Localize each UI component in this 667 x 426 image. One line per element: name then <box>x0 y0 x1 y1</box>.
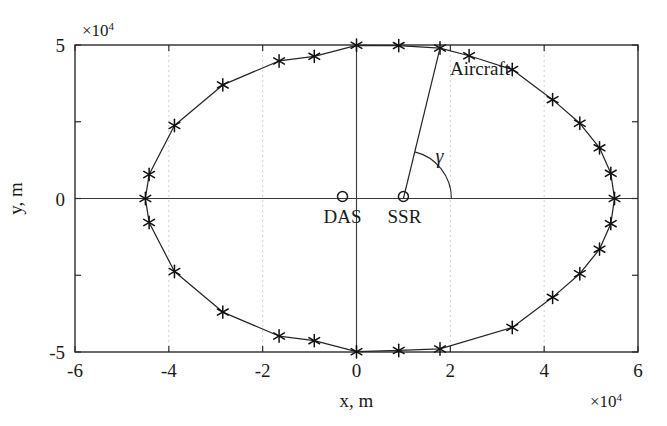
x-axis-exponent: ×104 <box>590 391 623 411</box>
x-tick-labels: -6-4-20246 <box>67 360 643 381</box>
aircraft-label: Aircraft <box>450 58 511 79</box>
y-tick-labels: 50-5 <box>49 35 65 363</box>
x-tick-label: -2 <box>255 360 271 381</box>
das-station-icon <box>338 192 348 202</box>
x-axis-title: x, m <box>340 390 374 411</box>
x-tick-label: -4 <box>161 360 177 381</box>
x-tick-label: 6 <box>633 360 643 381</box>
figure-root: -6-4-20246 50-5 x, m y, m ×104 ×104 Airc… <box>0 0 667 426</box>
data-point-marker <box>507 321 518 333</box>
data-point-marker <box>217 79 228 91</box>
gamma-angle-arc <box>415 152 452 199</box>
y-tick-label: 5 <box>56 35 66 56</box>
ssr-label: SSR <box>388 206 422 227</box>
line-of-sight <box>403 48 440 198</box>
y-axis-exponent: ×104 <box>82 20 115 40</box>
data-point-marker <box>217 306 228 318</box>
x-tick-label: 4 <box>539 360 549 381</box>
data-point-marker <box>605 217 616 229</box>
x-tick-label: 0 <box>352 360 362 381</box>
data-point-marker <box>547 291 558 303</box>
x-tick-label: 2 <box>446 360 456 381</box>
data-point-marker <box>144 216 155 228</box>
plot-canvas: -6-4-20246 50-5 x, m y, m ×104 ×104 Airc… <box>0 0 667 426</box>
data-point-marker <box>169 265 180 277</box>
y-tick-label: -5 <box>49 342 65 363</box>
data-point-marker <box>547 93 558 105</box>
data-point-marker <box>169 119 180 131</box>
y-tick-label: 0 <box>56 189 66 210</box>
x-tick-label: -6 <box>67 360 83 381</box>
das-label: DAS <box>323 206 361 227</box>
y-axis-title: y, m <box>5 182 26 215</box>
gamma-angle-label: γ <box>435 145 444 168</box>
data-point-marker <box>144 168 155 180</box>
axis-lines <box>75 45 638 352</box>
data-point-marker <box>605 167 616 179</box>
